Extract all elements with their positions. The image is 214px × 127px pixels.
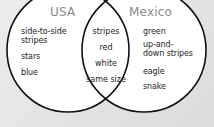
mexico-item: eagle: [143, 67, 165, 76]
venn-diagram: USA Mexico side-to-side stripes stars bl…: [0, 0, 214, 127]
overlap-item: same size: [84, 75, 128, 84]
usa-item: stripes: [21, 36, 47, 45]
usa-item: side-to-side: [21, 27, 67, 36]
mexico-title: Mexico: [129, 5, 172, 19]
mexico-item: up-and-: [143, 40, 173, 49]
mexico-item: green: [143, 27, 166, 36]
usa-title: USA: [50, 5, 75, 19]
usa-item: stars: [21, 52, 40, 61]
mexico-item: snake: [143, 82, 166, 91]
overlap-item: stripes: [84, 27, 128, 36]
mexico-item: down stripes: [143, 49, 193, 58]
usa-item: blue: [21, 68, 38, 77]
overlap-item: white: [84, 59, 128, 68]
overlap-item: red: [84, 43, 128, 52]
